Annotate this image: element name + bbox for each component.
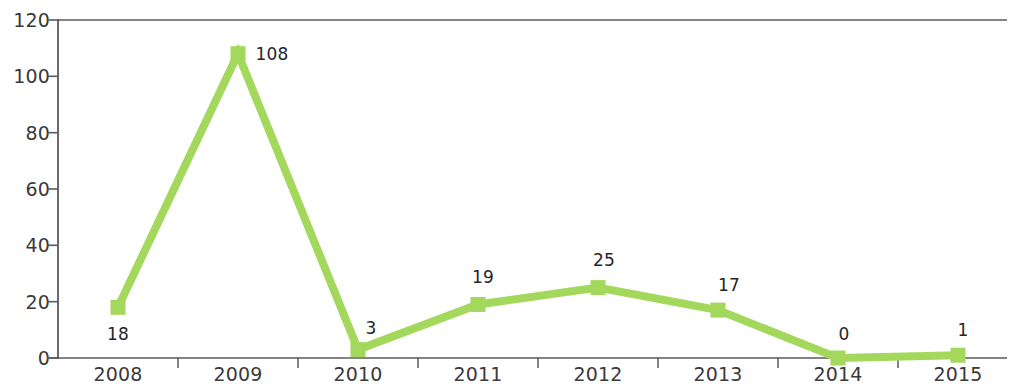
x-axis-tick-label: 2015 <box>933 365 982 384</box>
x-axis-tick-label: 2013 <box>693 365 742 384</box>
x-axis-tick-labels: 2008 2009 2010 2011 2012 2013 2014 2015 <box>0 0 1009 386</box>
x-axis-tick-label: 2010 <box>333 365 382 384</box>
x-axis-tick-label: 2011 <box>453 365 502 384</box>
x-axis-tick-label: 2008 <box>93 365 142 384</box>
x-axis-tick-label: 2009 <box>213 365 262 384</box>
x-axis-tick-label: 2014 <box>813 365 862 384</box>
line-chart: 120 100 80 60 40 20 0 <box>0 0 1009 386</box>
x-axis-tick-label: 2012 <box>573 365 622 384</box>
